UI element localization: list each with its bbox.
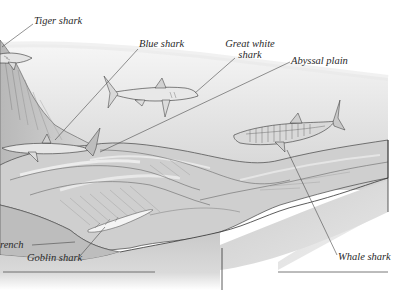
ocean-depth-illustration	[0, 0, 402, 290]
label-great-white-shark: Great white shark	[224, 38, 276, 60]
label-great-white-line1: Great white	[224, 38, 276, 49]
label-great-white-line2: shark	[224, 49, 276, 60]
label-tiger-shark: Tiger shark	[34, 15, 82, 26]
label-trench: rench	[0, 239, 24, 250]
label-goblin-shark: Goblin shark	[27, 252, 82, 263]
label-abyssal-plain: Abyssal plain	[291, 55, 348, 66]
label-blue-shark: Blue shark	[139, 38, 184, 49]
label-whale-shark: Whale shark	[338, 251, 391, 262]
